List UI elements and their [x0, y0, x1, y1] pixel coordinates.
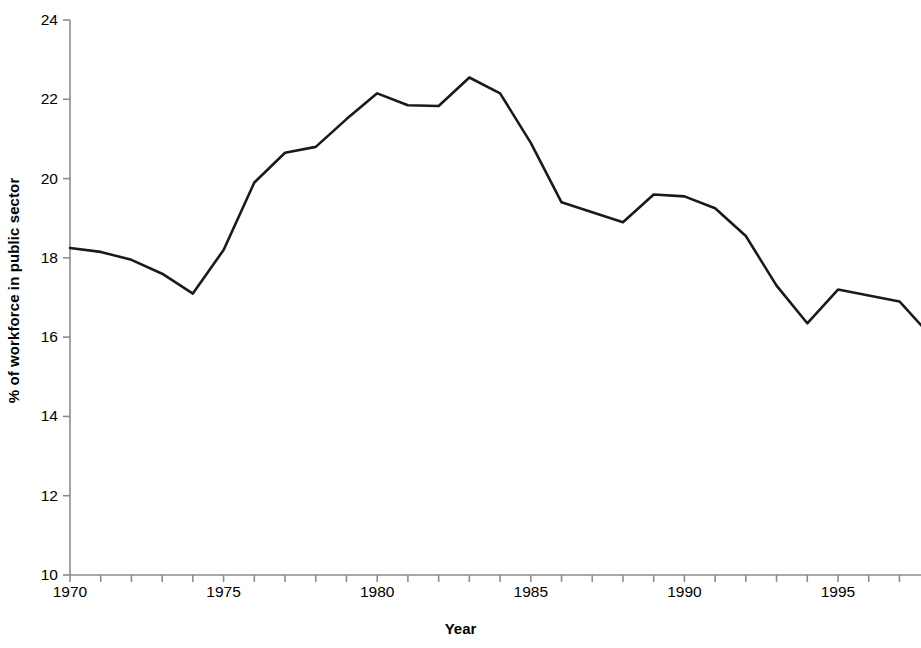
- y-axis-tick-label: 12: [16, 488, 58, 504]
- x-axis-title: Year: [0, 620, 921, 637]
- chart-plot-area: [0, 0, 921, 648]
- line-chart-figure: % of workforce in public sector 10121416…: [0, 0, 921, 648]
- y-axis-tick-label: 22: [16, 91, 58, 107]
- series-line-public-sector: [70, 77, 921, 335]
- x-axis-tick-label: 1990: [649, 584, 719, 600]
- x-axis-ticks: [70, 575, 899, 582]
- x-axis-tick-label: 1975: [189, 584, 259, 600]
- y-axis-tick-label: 16: [16, 329, 58, 345]
- x-axis-tick-label: 1995: [803, 584, 873, 600]
- y-axis-tick-label: 10: [16, 567, 58, 583]
- axis-lines: [70, 20, 921, 575]
- y-axis-tick-label: 20: [16, 171, 58, 187]
- y-axis-tick-label: 18: [16, 250, 58, 266]
- x-axis-tick-label: 1970: [35, 584, 105, 600]
- y-axis-tick-label: 14: [16, 408, 58, 424]
- y-axis-ticks: [63, 20, 70, 575]
- y-axis-tick-label: 24: [16, 12, 58, 28]
- x-axis-tick-label: 1980: [342, 584, 412, 600]
- x-axis-tick-label: 1985: [496, 584, 566, 600]
- x-axis-title-text: Year: [445, 620, 477, 637]
- data-series-group: [70, 77, 921, 335]
